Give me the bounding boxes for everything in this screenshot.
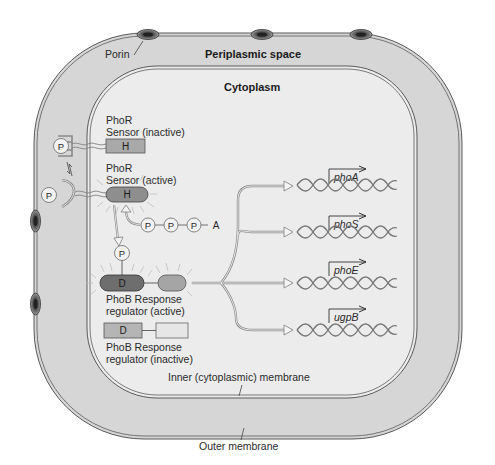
receiver-domain-label: D (119, 325, 126, 336)
sensor-inactive-label-1: PhoR (106, 114, 133, 126)
sensor-active-label-1: PhoR (106, 162, 133, 174)
porin-icon (137, 30, 159, 40)
receiver-domain-label: D (118, 278, 125, 289)
phosphate-label: P (46, 190, 52, 201)
adenosine-label: A (213, 220, 220, 231)
atp-phosphate-3: P (191, 220, 197, 231)
sensor-inactive-label-2: Sensor (inactive) (106, 126, 185, 138)
porin-icon (31, 293, 41, 315)
gene-label: phoE (333, 264, 360, 276)
regulator-inactive-label-2: regulator (inactive) (106, 353, 193, 365)
atp-phosphate-2: P (168, 220, 174, 231)
inner-membrane-label: Inner (cytoplasmic) membrane (168, 371, 310, 383)
gene-label: ugpB (334, 311, 359, 323)
regulator-active-label-1: PhoB Response (106, 293, 182, 305)
regulator-inactive-label-1: PhoB Response (106, 341, 182, 353)
histidine-domain-label: H (123, 189, 130, 200)
dna-binding-domain-box (156, 323, 188, 338)
porin-icon (251, 30, 273, 40)
phob-phor-signaling-diagram: Porin Periplasmic space Cytoplasm PhoR S… (0, 0, 495, 465)
sensor-active-label-2: Sensor (active) (106, 174, 177, 186)
regulator-active-label-2: regulator (active) (106, 305, 185, 317)
phosphate-label: P (58, 141, 64, 152)
outer-membrane-label: Outer membrane (199, 440, 279, 452)
periplasm-label: Periplasmic space (205, 48, 301, 60)
porin-icon (350, 30, 372, 40)
porin-icon (31, 210, 41, 232)
dna-binding-domain-pill (158, 275, 186, 291)
histidine-domain-label: H (122, 141, 129, 152)
phosphate-label: P (119, 248, 125, 259)
atp-phosphate-1: P (145, 220, 151, 231)
cytoplasm-label: Cytoplasm (224, 81, 280, 93)
porin-label: Porin (105, 48, 130, 60)
